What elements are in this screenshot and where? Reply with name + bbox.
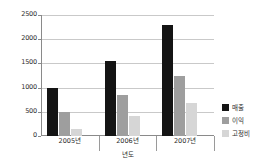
y-tick-label: 1000 [21,84,37,91]
legend: 매출이익고정비 [222,102,250,141]
legend-swatch-icon [222,117,229,124]
legend-item[interactable]: 매출 [222,102,250,113]
bar[interactable] [105,61,116,136]
bar[interactable] [47,88,58,136]
category-separator [214,136,215,151]
bar[interactable] [186,103,197,136]
bars-layer [41,15,214,136]
y-tick-label: 0 [33,132,37,139]
y-tick-label: 2500 [21,11,37,18]
legend-item[interactable]: 고정비 [222,128,250,139]
x-tick-label: 2007년 [156,137,214,145]
x-tick-label: 2006년 [99,137,157,145]
bar[interactable] [129,116,140,136]
bar[interactable] [174,76,185,137]
legend-swatch-icon [222,104,229,111]
bar-group [99,15,157,136]
bar-chart: 05001000150020002500 2005년2006년2007년 년도 … [0,0,270,167]
bar-group [41,15,99,136]
y-tick-label: 1500 [21,59,37,66]
legend-label: 이익 [232,117,244,125]
category-separator [99,136,100,151]
x-axis-title: 년도 [41,151,214,159]
bar[interactable] [117,95,128,136]
y-tick-label: 2000 [21,35,37,42]
bar[interactable] [59,112,70,136]
category-separator [156,136,157,151]
x-tick-label: 2005년 [41,137,99,145]
bar[interactable] [71,129,82,136]
legend-label: 매출 [232,104,244,112]
legend-label: 고정비 [232,130,250,138]
y-tick-label: 500 [25,108,37,115]
legend-swatch-icon [222,130,229,137]
bar-group [156,15,214,136]
bar[interactable] [162,25,173,136]
legend-item[interactable]: 이익 [222,115,250,126]
